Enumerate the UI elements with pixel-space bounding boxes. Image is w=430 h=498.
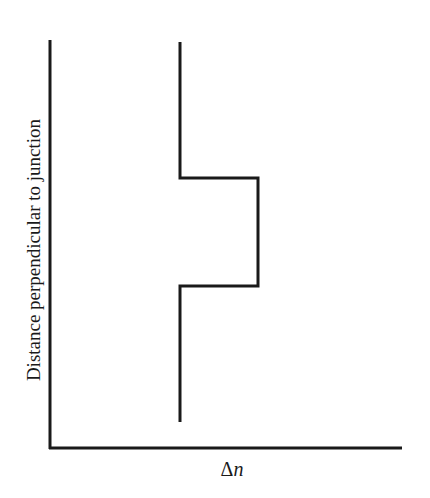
x-axis-label: Δn (221, 458, 244, 480)
diagram-canvas: Distance perpendicular to junction Δn (0, 0, 430, 498)
y-axis-label: Distance perpendicular to junction (23, 118, 44, 381)
n-variable: n (233, 458, 243, 480)
step-profile-line (180, 42, 258, 422)
delta-symbol: Δ (221, 458, 234, 480)
